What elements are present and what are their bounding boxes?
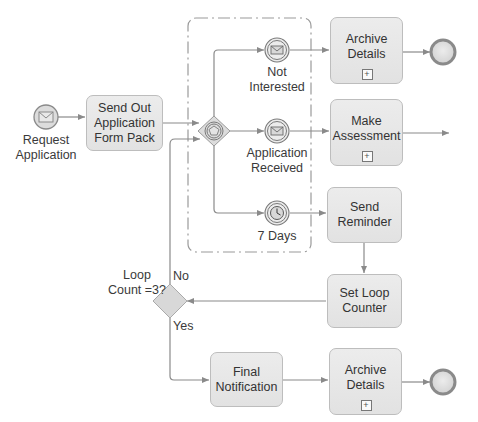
clock-icon [271,207,284,220]
end-event-2[interactable] [431,370,455,394]
task-label: Archive Details [346,32,388,62]
expand-icon[interactable]: + [362,69,373,80]
envelope-icon [271,127,283,135]
subprocess-make-assessment[interactable]: Make Assessment + [330,99,403,166]
loop-count-label: Loop Count =3? [107,268,167,298]
envelope-icon [271,46,283,54]
no-label: No [173,269,195,284]
intermediate-event-application-received[interactable] [265,119,289,143]
end-event-1[interactable] [431,40,455,64]
task-final-notification[interactable]: Final Notification [210,352,283,407]
task-label: Final Notification [216,365,278,395]
expand-icon[interactable]: + [362,151,373,162]
task-send-out-application-form-pack[interactable]: Send Out Application Form Pack [86,95,163,151]
task-label: Send Reminder [337,200,391,230]
not-interested-label: Not Interested [237,65,317,95]
task-label: Make Assessment [332,114,400,144]
yes-label: Yes [173,319,203,334]
task-send-reminder[interactable]: Send Reminder [327,187,402,243]
event-based-gateway[interactable] [198,116,230,146]
task-label: Send Out Application Form Pack [94,101,155,146]
task-label: Set Loop Counter [339,286,389,316]
envelope-icon [39,112,53,122]
subprocess-archive-details-2[interactable]: Archive Details + [329,348,402,415]
seven-days-label: 7 Days [237,229,317,244]
subprocess-archive-details-1[interactable]: Archive Details + [330,17,403,84]
task-set-loop-counter[interactable]: Set Loop Counter [327,274,402,328]
intermediate-event-7-days[interactable] [265,201,289,225]
flow-decision-no-to-gateway [170,139,200,284]
task-label: Archive Details [345,363,387,393]
intermediate-event-not-interested[interactable] [265,38,289,62]
application-received-label: Application Received [237,146,317,176]
start-event-label: Request Application [10,133,82,163]
start-event[interactable] [34,105,58,129]
expand-icon[interactable]: + [361,400,372,411]
